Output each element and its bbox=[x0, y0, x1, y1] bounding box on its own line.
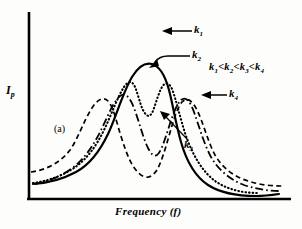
annotation-arrow-k2 bbox=[149, 56, 190, 68]
curve-k1 bbox=[33, 64, 279, 196]
resonance-curves-plot bbox=[0, 0, 302, 229]
annotation-arrow-k4 bbox=[201, 91, 227, 99]
curve-label-k1: k1 bbox=[194, 24, 203, 38]
annotation-arrow-k1 bbox=[162, 27, 192, 35]
figure-panel-a: Ip Frequency (f) (a) k1 k2 k3 k4 k1<k2<k… bbox=[0, 0, 302, 229]
panel-label: (a) bbox=[54, 124, 65, 134]
inequality-annotation: k1<k2<k3<k4 bbox=[209, 62, 264, 75]
curve-label-k2: k2 bbox=[192, 49, 201, 63]
y-axis-label: Ip bbox=[6, 84, 15, 99]
curve-k4 bbox=[31, 99, 283, 186]
y-axis-label-sub: p bbox=[11, 90, 15, 99]
curve-label-k3: k3 bbox=[184, 139, 193, 153]
x-axis-label: Frequency (f) bbox=[115, 206, 182, 217]
curve-k3 bbox=[35, 95, 279, 191]
curve-label-k4: k4 bbox=[229, 88, 238, 102]
